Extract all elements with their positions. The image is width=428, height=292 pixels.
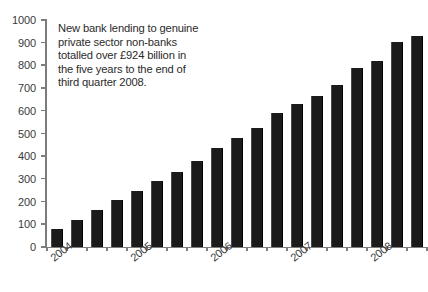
bar [311,96,323,247]
x-axis-tick-mark [46,247,48,251]
bar [411,36,423,247]
y-axis-tick-label: 0 [30,241,36,253]
bar [271,113,283,247]
x-axis-tick-mark [166,247,168,251]
y-axis-tick-label: 200 [18,196,36,208]
bar [351,68,363,247]
bar-chart-figure: 10009008007006005004003002001000 2004200… [0,0,428,292]
bar [71,220,83,247]
y-axis-tick: 200 [0,196,46,208]
bar [91,210,103,247]
bar [211,148,223,247]
x-axis-tick-mark [286,247,288,251]
x-axis-tick-mark [206,247,208,251]
bar [151,181,163,247]
y-axis-tick: 600 [0,105,46,117]
x-axis-tick-mark [126,247,128,251]
bar [131,191,143,247]
y-axis-tick-label: 800 [18,59,36,71]
y-axis-tick: 400 [0,150,46,162]
y-axis-tick-group: 10009008007006005004003002001000 [0,0,46,292]
x-axis-tick-mark [426,247,428,251]
y-axis-tick: 300 [0,173,46,185]
annotation-line: the five years to the end of [58,63,238,77]
bar [231,138,243,247]
y-axis-tick: 100 [0,218,46,230]
x-axis-tick-mark [406,247,408,251]
y-axis-tick-label: 600 [18,105,36,117]
bar [331,85,343,247]
y-axis-tick-label: 100 [18,218,36,230]
chart-annotation-text: New bank lending to genuineprivate secto… [58,22,238,90]
x-axis-tick-mark [366,247,368,251]
x-axis-tick-mark [266,247,268,251]
y-axis-tick: 900 [0,37,46,49]
bar [191,161,203,247]
x-axis-tick-mark [326,247,328,251]
bar [111,200,123,247]
y-axis-tick: 800 [0,59,46,71]
x-axis-tick-group: 20042005200620072008 [46,247,426,292]
bar [171,172,183,247]
annotation-line: private sector non-banks [58,36,238,50]
bar [291,104,303,247]
y-axis-tick: 700 [0,82,46,94]
annotation-line: totalled over £924 billion in [58,49,238,63]
y-axis-tick-label: 500 [18,128,36,140]
x-axis-tick-mark [346,247,348,251]
y-axis-tick: 500 [0,128,46,140]
x-axis-tick-mark [186,247,188,251]
y-axis-tick: 0 [0,241,46,253]
annotation-line: New bank lending to genuine [58,22,238,36]
y-axis-tick-label: 300 [18,173,36,185]
y-axis-tick-label: 1000 [12,14,36,26]
x-axis-tick-mark [246,247,248,251]
y-axis-tick-label: 700 [18,82,36,94]
x-axis-tick-mark [106,247,108,251]
bar [371,61,383,247]
y-axis-tick-label: 400 [18,150,36,162]
y-axis-tick: 1000 [0,14,46,26]
bar [251,128,263,247]
y-axis-tick-label: 900 [18,37,36,49]
bar [391,42,403,247]
annotation-line: third quarter 2008. [58,76,238,90]
x-axis-tick-mark [86,247,88,251]
